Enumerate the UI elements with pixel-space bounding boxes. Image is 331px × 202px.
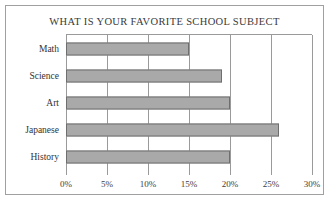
- x-axis-tick-labels: 0%5%10%15%20%25%30%: [66, 171, 312, 191]
- bar-row: Japanese: [66, 117, 312, 144]
- x-tick-label: 15%: [181, 179, 198, 189]
- bar-row: Science: [66, 62, 312, 89]
- category-label-history: History: [31, 152, 60, 162]
- bar-history: [66, 151, 230, 164]
- category-label-math: Math: [39, 44, 59, 54]
- bar-art: [66, 96, 230, 109]
- bar-row: History: [66, 144, 312, 171]
- x-tick-label: 5%: [101, 179, 113, 189]
- plot-area: MathScienceArtJapaneseHistory: [66, 34, 312, 171]
- category-label-art: Art: [46, 98, 59, 108]
- x-tick-label: 30%: [304, 179, 321, 189]
- bar-math: [66, 42, 189, 55]
- chart-title: WHAT IS YOUR FAVORITE SCHOOL SUBJECT: [6, 16, 323, 27]
- category-label-science: Science: [29, 71, 59, 81]
- bar-japanese: [66, 124, 279, 137]
- gridline-30pct: [312, 35, 313, 175]
- category-label-japanese: Japanese: [25, 125, 59, 135]
- bar-row: Math: [66, 35, 312, 62]
- x-tick-label: 0%: [60, 179, 72, 189]
- bar-science: [66, 69, 222, 82]
- x-tick-label: 10%: [140, 179, 157, 189]
- chart-frame: WHAT IS YOUR FAVORITE SCHOOL SUBJECT Mat…: [5, 5, 324, 195]
- x-tick-label: 25%: [263, 179, 280, 189]
- x-tick-label: 20%: [222, 179, 239, 189]
- bar-row: Art: [66, 89, 312, 116]
